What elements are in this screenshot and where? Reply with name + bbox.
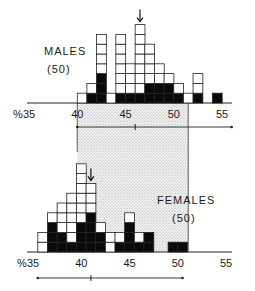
females-bar-cell xyxy=(67,213,77,223)
females-bar-cell xyxy=(134,232,144,242)
females-bar-cell xyxy=(125,223,135,233)
males-bar-cell xyxy=(97,34,107,44)
males-bar-cell xyxy=(154,83,164,93)
females-bar-cell xyxy=(67,232,77,242)
males-bar-cell xyxy=(97,44,107,54)
males-axis-prefix: % xyxy=(13,108,23,120)
males-tick-label: 40 xyxy=(71,108,83,120)
males-bar-cell xyxy=(145,93,155,103)
females-bar-cell xyxy=(67,223,77,233)
males-bar-cell xyxy=(174,93,184,103)
females-bar-cell xyxy=(76,223,86,233)
males-bar-cell xyxy=(135,44,145,54)
females-bar-cell xyxy=(125,213,135,223)
females-bar-cell xyxy=(144,232,154,242)
males-bar-cell xyxy=(154,64,164,74)
females-title: FEMALES xyxy=(157,194,215,206)
males-bar-cell xyxy=(154,74,164,84)
females-bar-cell xyxy=(47,213,57,223)
females-bar-cell xyxy=(57,232,67,242)
males-bar-cell xyxy=(97,74,107,84)
females-bar-cell xyxy=(86,183,96,193)
females-tick-label: 45 xyxy=(124,257,136,269)
females-bar-cell xyxy=(38,232,48,242)
males-bar-cell xyxy=(116,64,126,74)
males-bar-cell xyxy=(87,93,97,103)
females-bar-cell xyxy=(86,213,96,223)
males-bar-cell xyxy=(77,93,87,103)
males-bar-cell xyxy=(97,64,107,74)
males-bar-cell xyxy=(145,83,155,93)
females-bar-cell xyxy=(76,213,86,223)
males-bar-cell xyxy=(174,83,184,93)
females-bar-cell xyxy=(168,242,178,252)
females-bar-cell xyxy=(96,232,106,242)
females-bar-cell xyxy=(47,223,57,233)
females-bar-cell xyxy=(115,242,125,252)
males-bar-cell xyxy=(135,34,145,44)
females-bar-cell xyxy=(76,203,86,213)
males-bar-cell xyxy=(126,74,136,84)
males-bar-cell xyxy=(135,83,145,93)
females-bar-cell xyxy=(57,223,67,233)
males-tick-label: 55 xyxy=(216,108,228,120)
females-bar-cell xyxy=(86,203,96,213)
females-bar-cell xyxy=(76,183,86,193)
females-tick-label: 50 xyxy=(172,257,184,269)
females-bar-cell xyxy=(38,242,48,252)
males-sample-size: (50) xyxy=(47,63,71,75)
males-bar-cell xyxy=(164,83,174,93)
histogram-figure: 3540455055% 3540455055% MALES (50) FEMAL… xyxy=(0,0,255,291)
females-bar-cell xyxy=(96,223,106,233)
females-range-max xyxy=(181,277,184,280)
males-bar-cell xyxy=(145,74,155,84)
males-range-min xyxy=(76,126,79,129)
males-bar-cell xyxy=(87,83,97,93)
males-tick-label: 50 xyxy=(168,108,180,120)
females-sample-size: (50) xyxy=(172,212,196,224)
females-bar-cell xyxy=(125,242,135,252)
females-bar-cell xyxy=(105,232,115,242)
males-bar-cell xyxy=(193,74,203,84)
females-bar-cell xyxy=(47,242,57,252)
females-tick-label: 40 xyxy=(75,257,87,269)
females-range-min xyxy=(37,277,40,280)
females-bar-cell xyxy=(67,193,77,203)
males-bar-cell xyxy=(164,74,174,84)
males-bar-cell xyxy=(126,93,136,103)
females-bar-cell xyxy=(125,232,135,242)
males-bar-cell xyxy=(154,93,164,103)
males-bar-cell xyxy=(106,93,116,103)
males-bar-cell xyxy=(193,83,203,93)
males-bar-cell xyxy=(116,44,126,54)
females-bar-cell xyxy=(67,203,77,213)
males-bar-cell xyxy=(116,74,126,84)
females-tick-label: 55 xyxy=(220,257,232,269)
females-bar-cell xyxy=(76,232,86,242)
males-bar-cell xyxy=(145,44,155,54)
females-bar-cell xyxy=(47,232,57,242)
females-bar-cell xyxy=(96,242,106,252)
males-bar-cell xyxy=(116,83,126,93)
males-bar-cell xyxy=(126,83,136,93)
males-bar-cell xyxy=(183,93,193,103)
females-bar-cell xyxy=(105,242,115,252)
females-bar-cell xyxy=(86,242,96,252)
females-bar-cell xyxy=(178,242,188,252)
females-bar-cell xyxy=(57,213,67,223)
females-axis-prefix: % xyxy=(17,257,27,269)
females-tick-label: 35 xyxy=(27,257,39,269)
males-bar-cell xyxy=(135,54,145,64)
females-bar-cell xyxy=(86,193,96,203)
females-bar-cell xyxy=(86,223,96,233)
females-bar-cell xyxy=(76,242,86,252)
males-bar-cell xyxy=(126,64,136,74)
females-bar-cell xyxy=(76,193,86,203)
males-tick-label: 35 xyxy=(23,108,35,120)
females-bar-cell xyxy=(57,242,67,252)
females-bar-cell xyxy=(76,164,86,174)
males-bar-cell xyxy=(135,25,145,35)
females-bar-cell xyxy=(67,242,77,252)
males-bar-cell xyxy=(135,74,145,84)
females-bar-cell xyxy=(144,242,154,252)
